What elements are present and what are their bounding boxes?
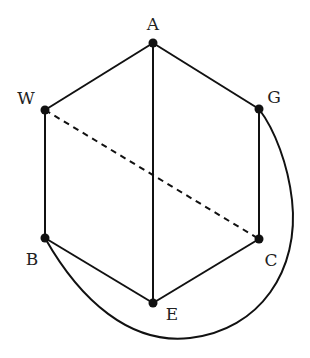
edge-a-g bbox=[153, 43, 259, 109]
labels: AWGBCE bbox=[17, 14, 281, 324]
node-a bbox=[149, 39, 158, 48]
edge-b-e bbox=[45, 238, 153, 303]
node-b bbox=[41, 234, 50, 243]
node-label-e: E bbox=[166, 304, 178, 324]
edge-c-e bbox=[153, 239, 259, 303]
node-label-c: C bbox=[264, 250, 277, 270]
node-label-a: A bbox=[146, 14, 160, 34]
node-label-b: B bbox=[26, 249, 39, 269]
node-w bbox=[41, 106, 50, 115]
node-c bbox=[255, 235, 264, 244]
node-g bbox=[255, 105, 264, 114]
graph-diagram: AWGBCE bbox=[0, 0, 310, 358]
edges bbox=[45, 43, 259, 303]
node-e bbox=[149, 299, 158, 308]
node-label-w: W bbox=[17, 88, 35, 108]
node-label-g: G bbox=[267, 87, 281, 107]
edge-a-w bbox=[45, 43, 153, 110]
